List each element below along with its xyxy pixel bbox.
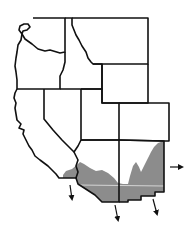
state-montana — [72, 18, 148, 64]
state-idaho — [60, 18, 102, 89]
arrow-south-new-mexico-icon — [153, 199, 157, 214]
state-colorado — [119, 103, 169, 141]
state-washington — [19, 18, 65, 53]
arrow-south-arizona-icon — [115, 205, 118, 220]
state-nevada — [44, 89, 81, 152]
state-wyoming — [102, 64, 148, 103]
map-svg — [0, 0, 194, 234]
state-utah — [81, 89, 119, 140]
arrow-south-california-icon — [70, 185, 72, 199]
western-us-map — [0, 0, 194, 234]
state-oregon — [15, 34, 65, 89]
state-california — [14, 89, 77, 178]
